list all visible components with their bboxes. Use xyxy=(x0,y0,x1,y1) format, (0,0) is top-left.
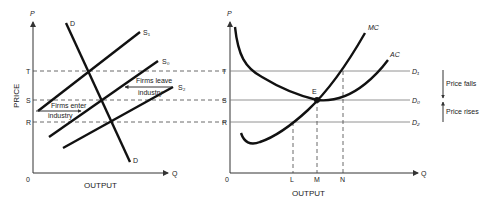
industry-panel: P Q 0 OUTPUT PRICE T S R D D S₁ S₀ S₂ Fi… xyxy=(12,10,228,190)
left-price-r: R xyxy=(26,119,31,126)
demand-label-d2: D₂ xyxy=(412,119,420,126)
demand-label-d1: D₁ xyxy=(412,68,420,75)
firms-enter-text-1: Firms enter xyxy=(51,102,87,109)
right-price-r: R xyxy=(222,119,227,126)
right-origin-label: 0 xyxy=(225,176,229,183)
output-label-l: L xyxy=(290,176,294,183)
left-x-axis-title: OUTPUT xyxy=(84,181,117,190)
supply-curve-s2 xyxy=(63,87,173,148)
diagram-canvas: P Q 0 OUTPUT PRICE T S R D D S₁ S₀ S₂ Fi… xyxy=(0,0,493,201)
marginal-cost-curve xyxy=(241,33,365,144)
firms-enter-text-2: industry xyxy=(48,112,73,120)
left-y-axis-label: P xyxy=(30,10,35,17)
right-x-axis-label: Q xyxy=(421,170,427,178)
supply-curve-s1 xyxy=(38,32,140,111)
right-y-axis-label: P xyxy=(227,10,232,17)
firms-leave-text-1: Firms leave xyxy=(136,77,172,84)
left-origin-label: 0 xyxy=(26,176,30,183)
left-y-axis-title: PRICE xyxy=(12,84,21,108)
mc-label: MC xyxy=(368,24,380,31)
left-price-t: T xyxy=(26,68,31,75)
demand-label-top: D xyxy=(70,20,75,27)
price-falls-label: Price falls xyxy=(446,80,477,87)
demand-label-d0: D₀ xyxy=(412,97,420,104)
supply-label-s2: S₂ xyxy=(178,84,186,91)
equilibrium-label: E xyxy=(312,88,317,95)
firm-panel: P Q 0 OUTPUT T S R D₁ D₀ D₂ L M N MC AC … xyxy=(222,10,427,198)
output-label-n: N xyxy=(340,176,345,183)
right-x-axis-title: OUTPUT xyxy=(292,189,325,198)
price-rises-label: Price rises xyxy=(446,108,479,115)
output-label-m: M xyxy=(314,176,320,183)
supply-label-s0: S₀ xyxy=(162,58,170,65)
right-price-s: S xyxy=(222,97,227,104)
ac-label: AC xyxy=(389,51,401,58)
firms-leave-text-2: industry xyxy=(138,89,163,97)
demand-label-bottom: D xyxy=(133,157,138,164)
right-price-t: T xyxy=(222,68,227,75)
left-price-s: S xyxy=(26,97,31,104)
equilibrium-point xyxy=(314,97,320,103)
left-x-axis-label: Q xyxy=(172,170,178,178)
supply-label-s1: S₁ xyxy=(143,29,151,36)
price-change-legend: Price falls Price rises xyxy=(443,70,479,122)
